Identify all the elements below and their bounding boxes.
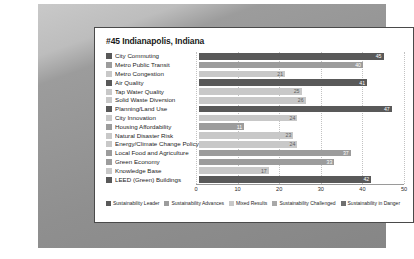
chart-row: Green Economy33 — [106, 158, 404, 167]
category-swatch — [106, 168, 112, 174]
chart-row: Metro Public Transit40 — [106, 61, 404, 70]
legend-label: Sustainability Advances — [171, 200, 224, 206]
bar: 24 — [199, 115, 297, 122]
bar-value-label: 47 — [384, 106, 392, 112]
bar: 33 — [199, 159, 334, 166]
category-label: Energy/Climate Change Policy — [115, 140, 199, 148]
x-tick-label: 0 — [194, 186, 197, 193]
chart-row: Solid Waste Diversion26 — [106, 96, 404, 105]
category-label: Solid Waste Diversion — [115, 96, 199, 104]
bar-track: 11 — [199, 122, 404, 131]
bar: 24 — [199, 141, 297, 148]
chart-row: City Innovation24 — [106, 114, 404, 123]
bar: 17 — [199, 167, 269, 174]
bar-track: 37 — [199, 149, 404, 158]
chart-row: City Commuting45 — [106, 52, 404, 61]
category-label: Knowledge Base — [115, 167, 199, 175]
bar: 41 — [199, 79, 367, 86]
bar: 37 — [199, 150, 351, 157]
legend-item: Sustainability Challenged — [272, 200, 335, 206]
chart-card: #45 Indianapolis, Indiana City Commuting… — [94, 27, 414, 223]
chart-row: Knowledge Base17 — [106, 166, 404, 175]
bar-value-label: 42 — [363, 176, 371, 182]
bar-value-label: 17 — [261, 168, 269, 174]
category-swatch — [106, 124, 112, 130]
bar: 26 — [199, 97, 306, 104]
x-tick-label: 30 — [318, 186, 324, 193]
category-label: LEED (Green) Buildings — [115, 176, 199, 184]
legend-label: Sustainability in Danger — [348, 200, 401, 206]
legend-swatch — [341, 201, 346, 206]
category-swatch — [106, 97, 112, 103]
bar-track: 17 — [199, 166, 404, 175]
bar: 23 — [199, 132, 293, 139]
bar-track: 24 — [199, 114, 404, 123]
category-label: Housing Affordability — [115, 123, 199, 131]
bar: 25 — [199, 88, 302, 95]
category-swatch — [106, 80, 112, 86]
x-axis-ticks: 01020304050 — [196, 185, 404, 197]
chart-row: Local Food and Agriculture37 — [106, 149, 404, 158]
category-label: City Innovation — [115, 114, 199, 122]
category-label: Air Quality — [115, 79, 199, 87]
legend-item: Sustainability Advances — [164, 200, 224, 206]
chart-row: LEED (Green) Buildings42 — [106, 175, 404, 184]
bar-value-label: 23 — [286, 132, 294, 138]
legend-item: Sustainability in Danger — [341, 200, 401, 206]
chart-rows: City Commuting45Metro Public Transit40Me… — [106, 52, 404, 184]
page-title: #45 Indianapolis, Indiana — [106, 36, 204, 46]
bar-track: 45 — [199, 52, 404, 61]
bar-track: 24 — [199, 140, 404, 149]
bar: 11 — [199, 123, 244, 130]
category-label: Planning/Land Use — [115, 105, 199, 113]
legend-swatch — [106, 201, 111, 206]
bar-value-label: 45 — [376, 53, 384, 59]
bar-chart: City Commuting45Metro Public Transit40Me… — [106, 52, 404, 194]
category-swatch — [106, 177, 112, 183]
legend-item: Mixed Results — [229, 200, 267, 206]
category-swatch — [106, 115, 112, 121]
bar-value-label: 26 — [298, 97, 306, 103]
bar-track: 40 — [199, 61, 404, 70]
bar-value-label: 21 — [277, 71, 285, 77]
bar-value-label: 25 — [294, 88, 302, 94]
bar-value-label: 40 — [355, 62, 363, 68]
legend-swatch — [229, 201, 234, 206]
category-label: Metro Congestion — [115, 70, 199, 78]
bar-track: 21 — [199, 70, 404, 79]
bar-track: 25 — [199, 87, 404, 96]
chart-row: Air Quality41 — [106, 78, 404, 87]
bar: 40 — [199, 62, 363, 69]
category-swatch — [106, 106, 112, 112]
category-swatch — [106, 53, 112, 59]
category-swatch — [106, 141, 112, 147]
bar-track: 41 — [199, 78, 404, 87]
bar-track: 23 — [199, 131, 404, 140]
chart-row: Metro Congestion21 — [106, 70, 404, 79]
bar-track: 47 — [199, 105, 404, 114]
legend-swatch — [272, 201, 277, 206]
gridline — [404, 52, 406, 184]
bar: 42 — [199, 176, 371, 183]
bar: 45 — [199, 53, 384, 60]
bar-value-label: 37 — [343, 150, 351, 156]
slide-background: #45 Indianapolis, Indiana City Commuting… — [38, 4, 386, 248]
category-label: Green Economy — [115, 158, 199, 166]
category-swatch — [106, 133, 112, 139]
bar-value-label: 11 — [237, 124, 244, 130]
bar-value-label: 41 — [359, 80, 367, 86]
legend-label: Sustainability Challenged — [279, 200, 335, 206]
chart-row: Housing Affordability11 — [106, 122, 404, 131]
bar-track: 42 — [199, 175, 404, 184]
category-swatch — [106, 159, 112, 165]
category-label: City Commuting — [115, 52, 199, 60]
bar: 47 — [199, 106, 392, 113]
category-label: Tap Water Quality — [115, 88, 199, 96]
chart-row: Planning/Land Use47 — [106, 105, 404, 114]
chart-row: Energy/Climate Change Policy24 — [106, 140, 404, 149]
bar: 21 — [199, 71, 285, 78]
category-label: Natural Disaster Risk — [115, 132, 199, 140]
chart-legend: Sustainability LeaderSustainability Adva… — [106, 200, 406, 206]
bar-track: 33 — [199, 158, 404, 167]
